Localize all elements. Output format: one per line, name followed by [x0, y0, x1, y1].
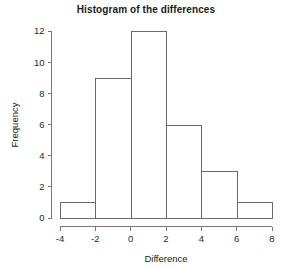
y-tick-label: 10	[34, 57, 45, 68]
y-axis-line	[48, 31, 52, 218]
x-tick-label: -4	[56, 233, 64, 244]
histogram-bar	[237, 203, 272, 219]
histogram-bar	[202, 172, 237, 219]
histogram-figure: Histogram of the differences 024681012 -…	[0, 0, 292, 268]
y-tick-label: 0	[39, 212, 44, 223]
histogram-plot: 024681012 -4-202468 Difference Frequency	[0, 0, 292, 268]
y-axis-title: Frequency	[9, 102, 20, 147]
histogram-bar	[96, 78, 131, 218]
x-tick-label: -2	[91, 233, 99, 244]
x-tick-label: 2	[163, 233, 168, 244]
histogram-bar	[61, 203, 96, 219]
x-axis: -4-202468	[56, 227, 275, 244]
y-tick-label: 4	[39, 150, 44, 161]
y-tick-label: 6	[39, 119, 44, 130]
histogram-bar	[167, 125, 202, 219]
x-tick-label: 8	[269, 233, 274, 244]
y-tick-label: 2	[39, 181, 44, 192]
y-tick-label: 8	[39, 88, 44, 99]
x-tick-label: 4	[199, 233, 204, 244]
x-tick-label: 0	[128, 233, 133, 244]
y-tick-label: 12	[34, 25, 45, 36]
y-axis: 024681012	[34, 25, 52, 223]
x-axis-title: Difference	[144, 253, 187, 264]
histogram-bar	[131, 32, 166, 219]
histogram-bars	[61, 32, 273, 219]
x-axis-line	[60, 227, 272, 231]
x-tick-label: 6	[234, 233, 239, 244]
